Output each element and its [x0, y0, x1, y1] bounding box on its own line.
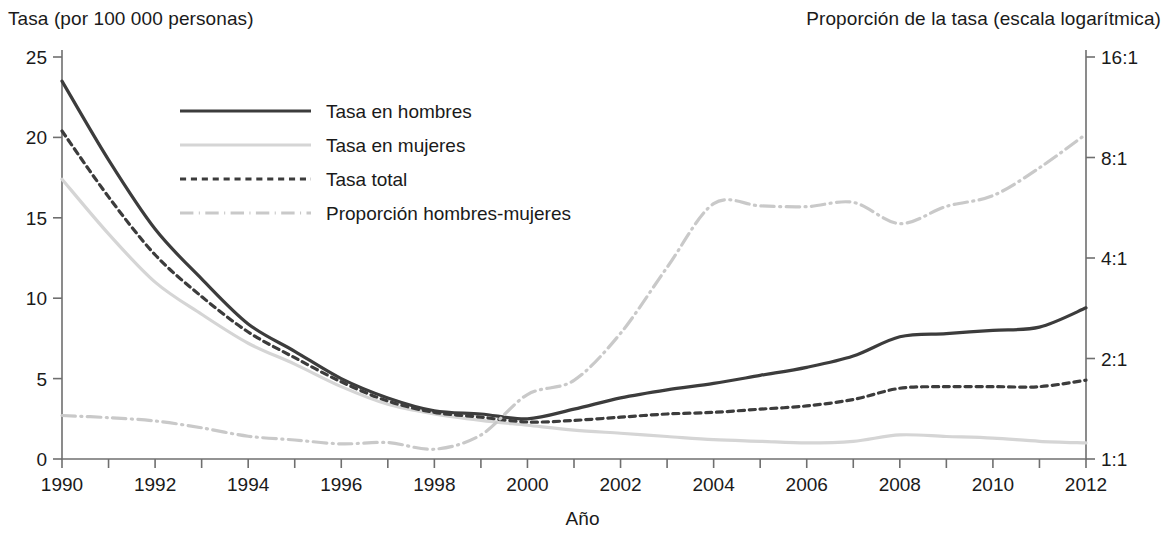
chart-figure: Tasa (por 100 000 personas) Proporción d… — [0, 0, 1165, 534]
x-axis-tick-label: 1994 — [227, 474, 270, 495]
y2-axis-tick-label: 2:1 — [1101, 349, 1127, 370]
x-axis-tick-label: 1996 — [320, 474, 362, 495]
legend-layer: Tasa en hombresTasa en mujeresTasa total… — [180, 101, 571, 224]
series-layer — [62, 81, 1086, 449]
x-axis-tick-label: 2000 — [506, 474, 548, 495]
y-axis-tick-label: 5 — [36, 369, 47, 390]
series-line — [62, 81, 1086, 419]
x-axis-tick-label: 2006 — [786, 474, 828, 495]
x-axis-tick-label: 2008 — [879, 474, 921, 495]
y-axis-tick-label: 15 — [26, 208, 47, 229]
x-axis-tick-label: 2012 — [1065, 474, 1107, 495]
legend-label[interactable]: Tasa en mujeres — [326, 135, 465, 156]
y-axis-tick-label: 10 — [26, 288, 47, 309]
x-axis-tick-label: 1998 — [413, 474, 455, 495]
x-axis-tick-label: 2004 — [692, 474, 735, 495]
x-axis-tick-label: 2002 — [599, 474, 641, 495]
x-axis-tick-label: 1992 — [134, 474, 176, 495]
y-axis-tick-label: 20 — [26, 127, 47, 148]
y-axis-tick-label: 25 — [26, 47, 47, 68]
x-axis-tick-label: 2010 — [972, 474, 1014, 495]
series-line — [62, 179, 1086, 443]
legend-label[interactable]: Proporción hombres-mujeres — [326, 203, 571, 224]
y2-axis-tick-label: 1:1 — [1101, 449, 1127, 470]
x-axis-tick-label: 1990 — [41, 474, 83, 495]
legend-label[interactable]: Tasa total — [326, 169, 407, 190]
legend-label[interactable]: Tasa en hombres — [326, 101, 472, 122]
y2-axis-tick-label: 16:1 — [1101, 47, 1138, 68]
plot-area: 05101520251:12:14:18:116:119901992199419… — [0, 0, 1165, 534]
y2-axis-tick-label: 4:1 — [1101, 248, 1127, 269]
y-axis-tick-label: 0 — [36, 449, 47, 470]
y2-axis-tick-label: 8:1 — [1101, 148, 1127, 169]
